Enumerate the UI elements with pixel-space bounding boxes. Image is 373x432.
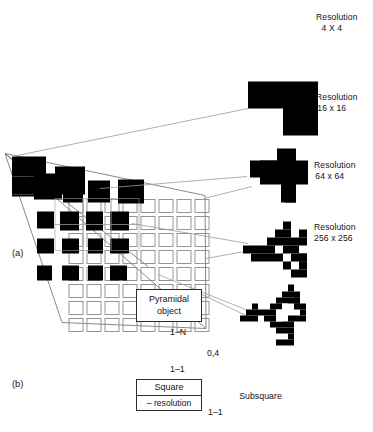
cardinality-1-n: 1–N (170, 327, 186, 337)
resolution-label-line2: 16 x 16 (316, 103, 358, 114)
cardinality-1-1-upper: 1–1 (170, 364, 185, 374)
cardinality-1-1-lower: 1–1 (208, 407, 223, 417)
resolution-shape-16x16 (250, 149, 308, 203)
resolution-label-line1: Resolution (314, 160, 356, 171)
resolution-label-16x16: Resolution 16 x 16 (316, 92, 358, 114)
resolution-shape-4x4 (248, 82, 318, 136)
relationship-subsquare[interactable]: Subsquare (219, 385, 302, 407)
entity-square[interactable]: Square – resolution (136, 379, 202, 411)
resolution-label-line2: 64 x 64 (314, 171, 356, 182)
resolution-label-64x64: Resolution 64 x 64 (314, 160, 356, 182)
entity-square-name: Square (137, 380, 201, 396)
figure-panel-a: Resolution 4 X 4 Resolution 16 x 16 Reso… (0, 0, 373, 275)
resolution-label-line2: 4 X 4 (316, 23, 358, 34)
entity-pyramidal-object-line1: Pyramidal (149, 294, 189, 306)
cardinality-0-4: 0,4 (207, 348, 219, 358)
entity-square-attribute: – resolution (137, 396, 201, 411)
resolution-shape-64x64 (243, 222, 307, 278)
resolution-label-line1: Resolution (314, 222, 363, 233)
resolution-label-4x4: Resolution 4 X 4 (316, 12, 358, 34)
entity-pyramidal-object[interactable]: Pyramidal object (136, 289, 202, 322)
figure-panel-b: Pyramidal object Square – resolution Sub… (0, 275, 373, 432)
pyramid-filled-cells-coarse (12, 157, 144, 204)
panel-b-label: (b) (12, 378, 23, 389)
panel-a-label: (a) (12, 247, 23, 258)
resolution-label-line1: Resolution (316, 12, 358, 23)
entity-pyramidal-object-line2: object (157, 306, 181, 318)
resolution-label-256x256: Resolution 256 x 256 (314, 222, 363, 244)
resolution-label-line1: Resolution (316, 92, 358, 103)
relationship-subsquare-label: Subsquare (239, 391, 282, 401)
resolution-label-line2: 256 x 256 (314, 233, 363, 244)
